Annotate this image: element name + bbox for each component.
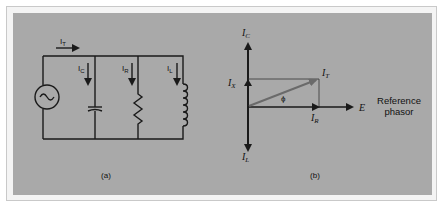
label-it-phasor: IT xyxy=(321,67,330,80)
caption-b: (b) xyxy=(310,171,320,180)
label-e: E xyxy=(358,102,365,113)
label-il: IL xyxy=(167,64,173,74)
label-reference-line2: phasor xyxy=(384,106,413,117)
label-reference-line1: Reference xyxy=(377,95,421,106)
label-it: IT xyxy=(60,37,66,47)
label-ic-axis: IC xyxy=(241,27,250,40)
resistor-icon xyxy=(134,56,142,139)
phasor-diagram xyxy=(244,44,352,150)
sine-icon xyxy=(40,94,54,100)
label-ic: IC xyxy=(78,64,85,74)
capacitor-plate-bottom xyxy=(88,110,102,112)
label-phase-angle: ϕ xyxy=(281,94,286,103)
label-il-axis: IL xyxy=(241,151,249,164)
ix-arrowhead xyxy=(244,79,252,86)
inductor-icon xyxy=(183,84,188,126)
label-ix: IX xyxy=(227,77,236,90)
circuit-diagram xyxy=(35,48,188,139)
bottom-wire xyxy=(43,126,183,139)
figure-svg: IT IC IR IL (a) IC IX IT IR IL ϕ E Refer… xyxy=(0,0,445,208)
top-wire xyxy=(43,56,183,84)
label-ir: IR xyxy=(122,64,129,74)
label-ir-phasor: IR xyxy=(310,112,319,125)
caption-a: (a) xyxy=(101,171,111,180)
